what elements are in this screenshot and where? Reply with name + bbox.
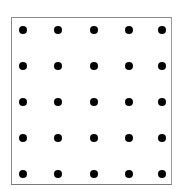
grid-dot xyxy=(54,170,62,178)
grid-dot xyxy=(19,134,27,142)
grid-dot xyxy=(90,98,98,106)
grid-dot xyxy=(54,98,62,106)
grid-dot xyxy=(90,170,98,178)
grid-dot xyxy=(90,62,98,70)
grid-dot xyxy=(125,62,133,70)
grid-dot xyxy=(19,62,27,70)
grid-dot xyxy=(125,170,133,178)
grid-dot xyxy=(158,98,166,106)
grid-dot xyxy=(90,26,98,34)
grid-dot xyxy=(158,62,166,70)
grid-dot xyxy=(54,62,62,70)
grid-dot xyxy=(54,26,62,34)
dot-grid-canvas xyxy=(0,0,182,189)
grid-dot xyxy=(125,26,133,34)
grid-dot xyxy=(19,26,27,34)
grid-dot xyxy=(158,26,166,34)
grid-dot xyxy=(90,134,98,142)
grid-dot xyxy=(19,98,27,106)
grid-dot xyxy=(158,170,166,178)
grid-dot xyxy=(158,134,166,142)
grid-dot xyxy=(54,134,62,142)
grid-dot xyxy=(19,170,27,178)
grid-dot xyxy=(125,98,133,106)
grid-dot xyxy=(125,134,133,142)
